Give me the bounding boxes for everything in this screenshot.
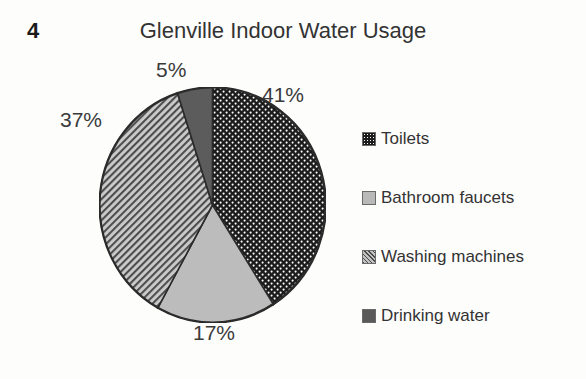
legend-label-drinking-water: Drinking water — [381, 307, 490, 324]
pie-label-washing-machines: 37% — [60, 108, 102, 132]
pie-chart — [99, 87, 326, 323]
legend-item-toilets: Toilets — [362, 109, 577, 168]
legend-label-toilets: Toilets — [381, 130, 429, 147]
pie-label-toilets: 41% — [262, 83, 304, 107]
legend-item-washing-machines: Washing machines — [362, 227, 577, 286]
legend-label-washing-machines: Washing machines — [381, 248, 524, 265]
figure-number: 4 — [27, 18, 39, 44]
chart-legend: Toilets Bathroom faucets Washing machine… — [362, 109, 577, 345]
drinking-water-swatch-icon — [362, 309, 376, 323]
pie-svg — [99, 87, 326, 323]
washing-machines-swatch-icon — [362, 250, 376, 264]
legend-item-drinking-water: Drinking water — [362, 286, 577, 345]
chart-title: Glenville Indoor Water Usage — [118, 18, 448, 44]
legend-item-bathroom-faucets: Bathroom faucets — [362, 168, 577, 227]
bathroom-faucets-swatch-icon — [362, 191, 376, 205]
chart-figure: 4 Glenville Indoor Water Usage — [0, 0, 586, 379]
pie-label-drinking-water: 5% — [156, 58, 186, 82]
legend-label-bathroom-faucets: Bathroom faucets — [381, 189, 514, 206]
toilets-swatch-icon — [362, 132, 376, 146]
pie-label-bathroom-faucets: 17% — [193, 321, 235, 345]
